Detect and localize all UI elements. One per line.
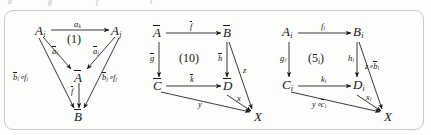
label-a-k: ak <box>74 20 81 29</box>
region-label-10: (10) <box>179 52 199 64</box>
label-f-bar: f <box>190 22 192 31</box>
label-h-bar: h <box>218 54 222 63</box>
clipped-fragment-4: i <box>150 0 152 6</box>
label-k-i: ki <box>321 75 326 84</box>
label-z-comp-b-bar-i: z∘bi <box>365 62 379 71</box>
figure-border: Ai Aj A B ak (1) ai aj <box>4 10 424 130</box>
label-g-i: gi <box>280 54 286 63</box>
label-a-bar-j: aj <box>93 47 99 56</box>
commutative-diagram-1: Ai Aj A B ak (1) ai aj <box>5 11 151 131</box>
region-label-1: (1) <box>67 33 81 45</box>
node-X: X <box>384 110 392 123</box>
node-A-bar: A <box>153 26 161 39</box>
node-A-bar: A <box>74 71 82 84</box>
figure-page: a g f i <box>0 0 431 135</box>
label-x-i: xi <box>366 93 371 102</box>
label-a-bar-i: ai <box>52 47 58 56</box>
clipped-fragment-1: a <box>8 0 12 6</box>
clipped-text-line: a g f i <box>0 0 431 9</box>
node-B-bar: B <box>223 26 231 39</box>
node-C-i: Ci <box>282 78 293 93</box>
label-z: z <box>243 66 246 75</box>
label-k-bar: k <box>190 75 194 84</box>
label-f-bar: f <box>71 87 73 96</box>
commutative-diagram-3: Ai Bi Ci Di X fi gi hi <box>277 11 425 131</box>
clipped-fragment-3: f <box>96 0 98 6</box>
diagram-3-arrows <box>277 11 425 131</box>
label-x: x <box>237 94 241 103</box>
node-B-i: Bi <box>353 25 363 40</box>
node-A-i: Ai <box>35 24 45 39</box>
arrow-a-bar-j <box>87 37 115 69</box>
label-g-bar: g <box>150 54 154 63</box>
node-D-bar: D <box>223 79 232 92</box>
node-A-j: Aj <box>111 24 121 39</box>
label-b-bar-i-comp-f-i: bi∘fi <box>13 73 28 82</box>
label-y: y <box>198 100 202 109</box>
node-A-i: Ai <box>282 25 292 40</box>
label-y-comp-c-bar-i: y∘ci <box>312 100 326 109</box>
clipped-fragment-2: g <box>48 0 52 6</box>
node-B-bar: B <box>74 110 82 123</box>
node-D-i: Di <box>353 78 365 93</box>
label-h-i: hi <box>348 54 354 63</box>
region-label-5-i: (5i) <box>308 52 324 65</box>
commutative-diagram-2: A B C D X f g h k <box>147 11 281 131</box>
node-C-bar: C <box>153 79 162 92</box>
label-b-bar-j-comp-f-j: bj∘fj <box>102 73 117 82</box>
node-X: X <box>254 110 262 123</box>
label-f-i: fi <box>321 22 325 31</box>
